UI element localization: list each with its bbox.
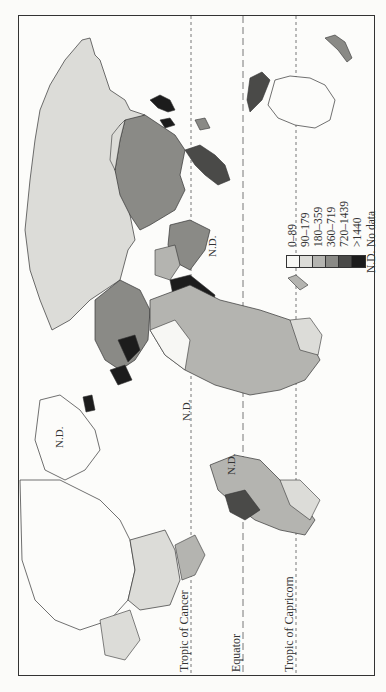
legend-label-1: 90–179 [299,213,311,248]
nd-label-south-america: N.D. [225,454,237,475]
region-canada [20,480,135,630]
region-mexico [175,535,205,580]
legend-label-5: >1440 [351,218,363,248]
legend: 0–89 90–179 180–359 360–719 720–1439 >14… [283,155,363,265]
region-japan [150,95,175,112]
legend-label-3: 360–719 [325,207,337,247]
region-new-guinea [247,72,270,112]
equator-label: Equator [229,634,244,672]
world-choropleth-map [0,0,386,692]
legend-label-4: 720–1439 [338,201,350,247]
tropic-of-capricorn-label: Tropic of Capricorn [282,576,297,672]
region-madagascar [288,275,308,290]
nd-label-greenland: N.D. [53,427,65,448]
legend-label-0: 0–89 [286,224,298,247]
legend-nd-label: No data [365,211,377,247]
region-australia [268,76,335,128]
region-new-zealand [325,35,352,62]
region-indonesia [185,145,230,185]
region-iran [155,245,180,280]
region-philippines [195,118,210,130]
legend-swatch-5 [351,255,366,268]
region-europe [95,280,150,370]
nd-label-middle-east: N.D. [206,236,218,257]
region-iceland [83,395,95,412]
legend-nd-code: N.D. [365,251,377,273]
region-uk [110,365,132,385]
region-usa [128,530,180,610]
legend-label-2: 180–359 [312,207,324,247]
nd-label-atlantic: N.D. [180,400,192,421]
tropic-of-cancer-label: Tropic of Cancer [177,590,192,672]
